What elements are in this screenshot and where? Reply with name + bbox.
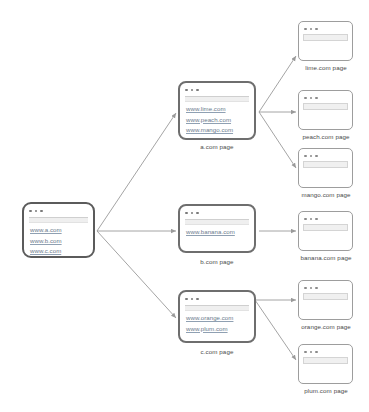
- window-dot-icon: [304, 351, 307, 354]
- lime-com-page-caption: lime.com page: [290, 64, 362, 72]
- window-dot-icon: [196, 89, 199, 92]
- window-dot-icon: [185, 89, 188, 92]
- banana-com-page-caption: banana.com page: [287, 254, 365, 262]
- window-dot-icon: [191, 298, 194, 301]
- peach-address-bar[interactable]: [303, 103, 348, 110]
- peach-titlebar: [299, 91, 352, 102]
- plum-titlebar: [299, 345, 352, 356]
- a-titlebar: [180, 83, 254, 94]
- orange-com-page-window[interactable]: [298, 280, 353, 320]
- root-link-c[interactable]: www.c.com: [30, 247, 93, 254]
- c-com-page-window[interactable]: www.orange.com www.plum.com: [178, 290, 256, 343]
- window-dot-icon: [196, 212, 199, 215]
- b-titlebar: [180, 206, 254, 217]
- window-dot-icon: [310, 287, 313, 290]
- a-link-mango[interactable]: www.mango.com: [186, 126, 254, 133]
- plum-com-page-window[interactable]: [298, 344, 353, 384]
- peach-com-page-window[interactable]: [298, 90, 353, 130]
- orange-address-bar[interactable]: [303, 293, 348, 300]
- orange-titlebar: [299, 281, 352, 292]
- orange-com-page-caption: orange.com page: [287, 323, 365, 331]
- window-dot-icon: [304, 218, 307, 221]
- root-link-b[interactable]: www.b.com: [30, 237, 93, 244]
- window-dot-icon: [315, 287, 318, 290]
- diagram-canvas: www.a.com www.b.com www.c.com www.lime.c…: [0, 0, 369, 412]
- plum-com-page-caption: plum.com page: [289, 387, 363, 395]
- b-com-page-window[interactable]: www.banana.com: [178, 204, 256, 253]
- window-dot-icon: [310, 28, 313, 31]
- window-dot-icon: [315, 218, 318, 221]
- window-dot-icon: [310, 155, 313, 158]
- b-link-banana[interactable]: www.banana.com: [186, 228, 254, 235]
- lime-address-bar[interactable]: [303, 34, 348, 41]
- c-com-page-caption: c.com page: [178, 348, 256, 356]
- root-link-a[interactable]: www.a.com: [30, 226, 93, 233]
- mango-com-page-window[interactable]: [298, 148, 353, 188]
- window-dot-icon: [35, 210, 38, 213]
- a-com-page-caption: a.com page: [178, 143, 256, 151]
- c-link-plum[interactable]: www.plum.com: [186, 325, 254, 332]
- mango-address-bar[interactable]: [303, 161, 348, 168]
- lime-titlebar: [299, 22, 352, 33]
- a-link-list: www.lime.com www.peach.com www.mango.com: [180, 102, 254, 133]
- window-dot-icon: [315, 351, 318, 354]
- edge-root-to-c: [97, 231, 176, 318]
- window-dot-icon: [185, 212, 188, 215]
- root-page-window[interactable]: www.a.com www.b.com www.c.com: [22, 202, 95, 258]
- window-dot-icon: [304, 287, 307, 290]
- edge-root-to-a: [97, 113, 176, 231]
- window-dot-icon: [310, 218, 313, 221]
- b-link-list: www.banana.com: [180, 225, 254, 235]
- window-dot-icon: [29, 210, 32, 213]
- a-link-peach[interactable]: www.peach.com: [186, 116, 254, 123]
- mango-titlebar: [299, 149, 352, 160]
- window-dot-icon: [191, 212, 194, 215]
- a-com-page-window[interactable]: www.lime.com www.peach.com www.mango.com: [178, 81, 256, 140]
- b-com-page-caption: b.com page: [178, 258, 256, 266]
- banana-com-page-window[interactable]: [298, 211, 353, 251]
- banana-address-bar[interactable]: [303, 224, 348, 231]
- window-dot-icon: [315, 97, 318, 100]
- window-dot-icon: [191, 89, 194, 92]
- window-dot-icon: [315, 155, 318, 158]
- banana-titlebar: [299, 212, 352, 223]
- peach-com-page-caption: peach.com page: [290, 133, 362, 141]
- c-link-list: www.orange.com www.plum.com: [180, 311, 254, 332]
- root-titlebar: [24, 204, 93, 215]
- mango-com-page-caption: mango.com page: [288, 191, 364, 199]
- root-link-list: www.a.com www.b.com www.c.com: [24, 223, 93, 254]
- lime-com-page-window[interactable]: [298, 21, 353, 61]
- window-dot-icon: [40, 210, 43, 213]
- window-dot-icon: [196, 298, 199, 301]
- a-link-lime[interactable]: www.lime.com: [186, 105, 254, 112]
- window-dot-icon: [304, 97, 307, 100]
- window-dot-icon: [304, 28, 307, 31]
- c-link-orange[interactable]: www.orange.com: [186, 314, 254, 321]
- window-dot-icon: [310, 351, 313, 354]
- window-dot-icon: [185, 298, 188, 301]
- window-dot-icon: [315, 28, 318, 31]
- c-titlebar: [180, 292, 254, 303]
- window-dot-icon: [304, 155, 307, 158]
- window-dot-icon: [310, 97, 313, 100]
- plum-address-bar[interactable]: [303, 357, 348, 364]
